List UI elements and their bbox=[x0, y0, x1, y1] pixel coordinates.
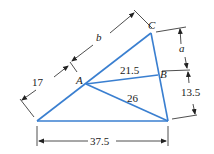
label-13-5: 13.5 bbox=[181, 86, 201, 98]
label-26: 26 bbox=[127, 92, 139, 104]
segment-AB bbox=[86, 75, 158, 84]
vertex-B: B bbox=[160, 68, 167, 80]
dimension-lines bbox=[20, 10, 197, 146]
label-b: b bbox=[96, 31, 102, 43]
triangle bbox=[37, 33, 168, 121]
vertex-C: C bbox=[148, 19, 156, 31]
label-21-5: 21.5 bbox=[120, 64, 140, 76]
label-17: 17 bbox=[32, 76, 44, 88]
label-37-5: 37.5 bbox=[90, 135, 110, 147]
diagram: 17 b A C B 21.5 26 a 13.5 37.5 bbox=[0, 0, 214, 154]
label-a: a bbox=[179, 42, 185, 54]
vertex-A: A bbox=[75, 74, 83, 86]
triangle-figure: 17 b A C B 21.5 26 a 13.5 37.5 bbox=[0, 0, 214, 154]
